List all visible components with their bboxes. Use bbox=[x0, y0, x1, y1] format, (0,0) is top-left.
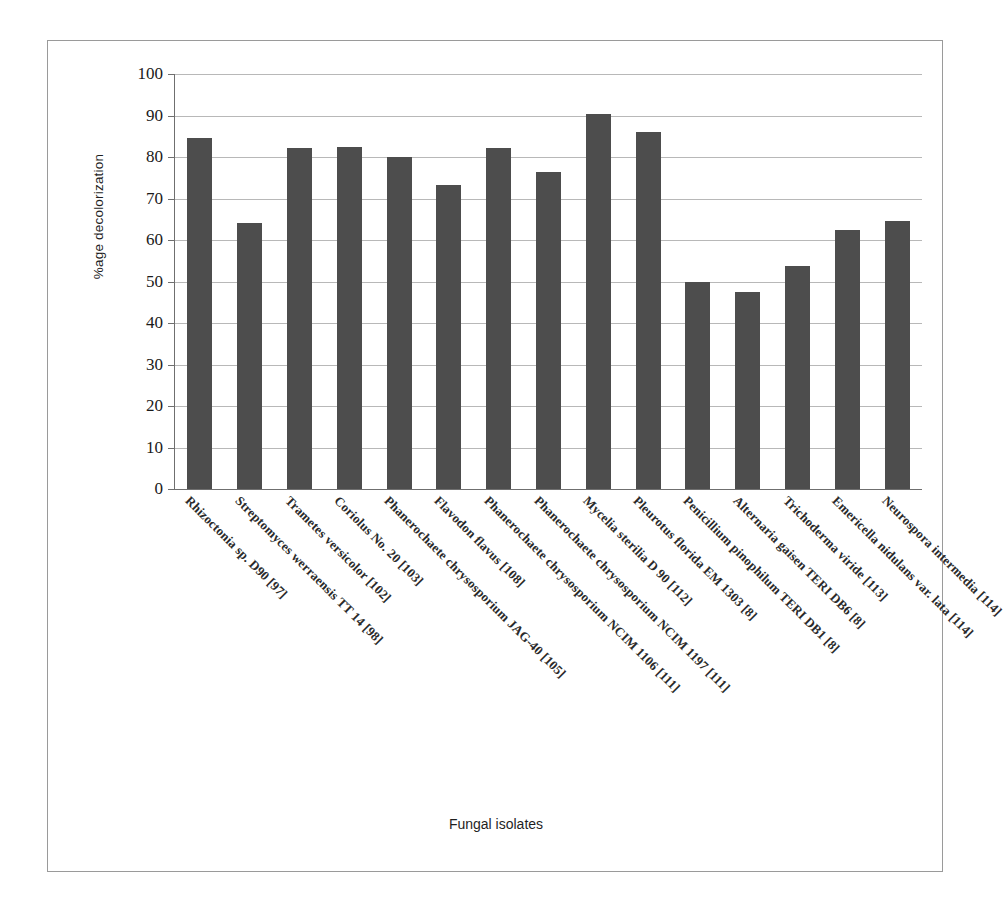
y-tick-mark-80 bbox=[168, 157, 175, 158]
y-tick-mark-20 bbox=[168, 406, 175, 407]
y-tick-label-40: 40 bbox=[146, 313, 163, 333]
y-tick-mark-0 bbox=[168, 489, 175, 490]
figure-frame: %age decolorization 10090807060504030201… bbox=[47, 40, 943, 872]
bar bbox=[785, 266, 810, 489]
y-tick-label-80: 80 bbox=[146, 147, 163, 167]
y-tick-label-30: 30 bbox=[146, 355, 163, 375]
bar bbox=[636, 132, 661, 489]
y-tick-mark-90 bbox=[168, 116, 175, 117]
y-tick-label-10: 10 bbox=[146, 438, 163, 458]
bar bbox=[486, 148, 511, 489]
bar bbox=[885, 221, 910, 489]
y-tick-label-0: 0 bbox=[155, 479, 164, 499]
bar bbox=[287, 148, 312, 489]
bar bbox=[586, 114, 611, 489]
y-axis-title: %age decolorization bbox=[91, 87, 106, 347]
x-tick-label: Coriolus No. 20 [103] bbox=[331, 493, 427, 589]
x-tick-label: Phanerochaete chrysosporium JAG-40 [105] bbox=[381, 493, 569, 681]
bar bbox=[735, 292, 760, 489]
bar bbox=[835, 230, 860, 489]
y-tick-mark-100 bbox=[168, 74, 175, 75]
y-tick-mark-10 bbox=[168, 448, 175, 449]
y-tick-label-50: 50 bbox=[146, 272, 163, 292]
y-tick-mark-70 bbox=[168, 199, 175, 200]
bar bbox=[436, 185, 461, 489]
y-tick-mark-40 bbox=[168, 323, 175, 324]
bar bbox=[387, 157, 412, 489]
y-tick-label-20: 20 bbox=[146, 396, 163, 416]
y-tick-mark-30 bbox=[168, 365, 175, 366]
bar bbox=[685, 282, 710, 490]
y-tick-mark-50 bbox=[168, 282, 175, 283]
plot-area: 1009080706050403020100 bbox=[174, 74, 922, 490]
bar bbox=[237, 223, 262, 489]
x-axis-tick-labels: Rhizoctonia sp. D90 [97]Streptomyces wer… bbox=[174, 493, 934, 823]
bar bbox=[187, 138, 212, 489]
x-tick-label: Flavodon flavus [108] bbox=[431, 493, 529, 591]
bars-layer bbox=[175, 74, 922, 489]
bar bbox=[536, 172, 561, 489]
y-tick-mark-60 bbox=[168, 240, 175, 241]
y-tick-label-70: 70 bbox=[146, 189, 163, 209]
gridline-0 bbox=[175, 489, 922, 490]
y-tick-label-100: 100 bbox=[138, 64, 164, 84]
bar bbox=[337, 147, 362, 489]
x-axis-title: Fungal isolates bbox=[48, 816, 944, 832]
y-tick-label-90: 90 bbox=[146, 106, 163, 126]
y-tick-label-60: 60 bbox=[146, 230, 163, 250]
